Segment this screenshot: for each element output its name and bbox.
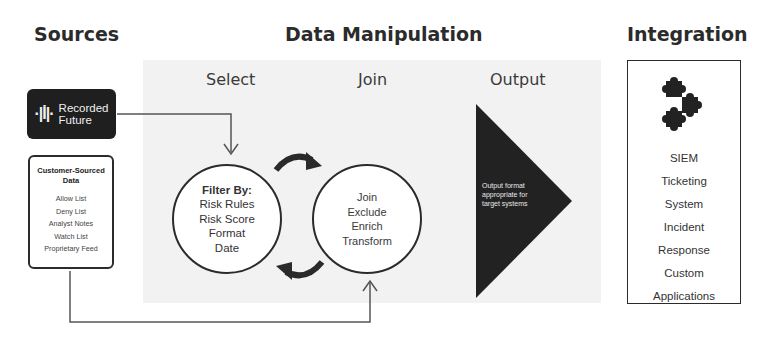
integration-item-incident-response: Incident Response — [628, 220, 740, 258]
recorded-future-name-line2: Future — [59, 114, 109, 126]
filter-item: Risk Score — [199, 212, 255, 227]
customer-sourced-data-box: Customer-Sourced Data Allow List Deny Li… — [28, 155, 114, 269]
integration-item-siem: SIEM — [628, 151, 740, 166]
customer-data-item: Watch List — [30, 231, 112, 244]
customer-data-item: Deny List — [30, 206, 112, 219]
customer-data-item: Analyst Notes — [30, 218, 112, 231]
curved-arrow-left-icon — [276, 262, 322, 280]
recorded-future-name-line1: Recorded — [59, 102, 109, 114]
output-description: Output format appropriate for target sys… — [482, 181, 544, 208]
filter-item: Date — [215, 241, 239, 256]
filter-item: Risk Rules — [200, 197, 255, 212]
filter-by-label: Filter By: — [202, 183, 252, 198]
join-item: Enrich — [351, 219, 382, 234]
curved-arrow-right-icon — [276, 152, 322, 170]
puzzle-pieces-icon — [662, 77, 706, 133]
integration-box: SIEM Ticketing System Incident Response … — [627, 60, 741, 304]
integration-item-ticketing: Ticketing System — [628, 174, 740, 212]
join-item: Join — [357, 190, 377, 205]
customer-data-item: Allow List — [30, 193, 112, 206]
recorded-future-source: ·|İ|· Recorded Future — [27, 89, 116, 139]
select-filter-circle: Filter By: Risk Rules Risk Score Format … — [172, 164, 282, 274]
customer-data-item: Proprietary Feed — [30, 243, 112, 256]
integration-item-custom-applications: Custom Applications — [628, 266, 740, 304]
filter-item: Format — [209, 226, 245, 241]
join-operations-circle: Join Exclude Enrich Transform — [312, 164, 422, 274]
customer-data-title-line1: Customer-Sourced — [30, 166, 112, 176]
join-item: Exclude — [347, 205, 386, 220]
customer-data-title-line2: Data — [30, 176, 112, 186]
recorded-future-logo-icon: ·|İ|· — [35, 105, 54, 123]
join-item: Transform — [342, 234, 392, 249]
